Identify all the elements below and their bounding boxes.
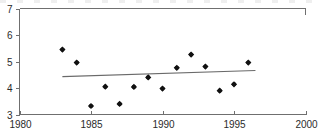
x-tick-label: 1980 xyxy=(9,119,32,130)
data-point-core xyxy=(103,85,107,89)
y-tick-label: 6 xyxy=(7,30,13,41)
data-point-core xyxy=(132,85,136,89)
y-axis-ticks: 34567 xyxy=(7,4,20,121)
x-axis-ticks: 19801985199019952000 xyxy=(9,111,318,130)
y-tick-label: 7 xyxy=(7,4,13,15)
data-point-core xyxy=(146,75,150,79)
data-point-core xyxy=(89,104,93,108)
data-point-core xyxy=(232,82,236,86)
data-point-core xyxy=(189,53,193,57)
trend-line-group xyxy=(62,71,255,77)
data-point-core xyxy=(175,66,179,70)
data-point-core xyxy=(246,60,250,64)
trend-line xyxy=(62,71,255,77)
x-tick-label: 1995 xyxy=(223,119,246,130)
y-tick-label: 4 xyxy=(7,83,13,94)
y-tick-label: 5 xyxy=(7,57,13,68)
data-point-core xyxy=(160,86,164,90)
data-point-core xyxy=(118,102,122,106)
plot-frame xyxy=(20,9,306,115)
x-tick-label: 1990 xyxy=(152,119,175,130)
data-point-core xyxy=(75,60,79,64)
data-point-core xyxy=(218,89,222,93)
chart-container: 34567 19801985199019952000 xyxy=(0,0,322,135)
scatter-chart: 34567 19801985199019952000 xyxy=(0,0,322,135)
x-tick-label: 1985 xyxy=(80,119,103,130)
x-tick-label: 2000 xyxy=(295,119,318,130)
data-point-core xyxy=(203,64,207,68)
data-point-core xyxy=(60,47,64,51)
data-points-group xyxy=(59,46,251,109)
